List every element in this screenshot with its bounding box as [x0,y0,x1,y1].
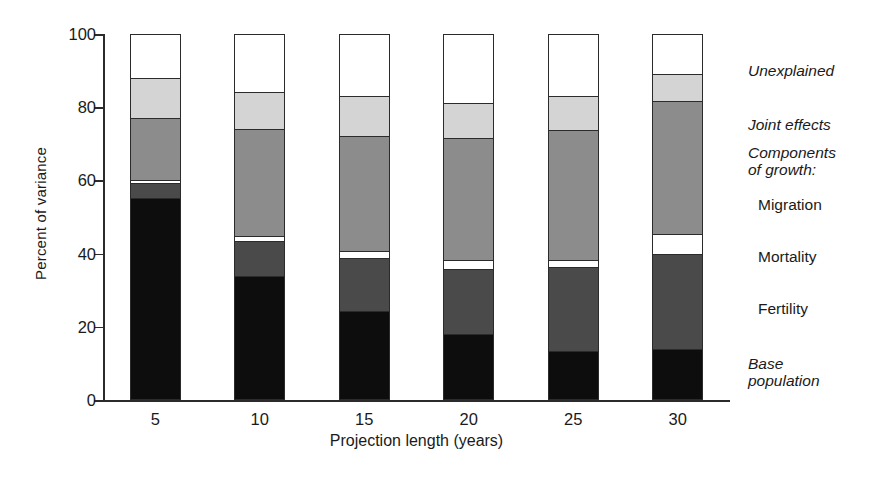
x-tick-label: 5 [151,410,160,429]
bar-segment-joint-effects [444,104,493,139]
legend-label-components-of-growth: Components of growth: [748,144,836,179]
bar-segment-migration [653,102,702,235]
bar-segment-base-population [444,335,493,399]
bar-segment-base-population [653,350,702,399]
x-axis-title: Projection length (years) [103,432,730,450]
bar-5[interactable] [130,34,181,400]
bar-segment-fertility [653,255,702,350]
bar-group [103,34,730,400]
x-tick-label: 30 [669,410,687,429]
bar-15[interactable] [339,34,390,400]
bar-segment-fertility [340,259,389,312]
bar-segment-base-population [235,277,284,399]
bar-segment-migration [444,139,493,261]
legend-label-mortality: Mortality [748,248,817,265]
legend: UnexplainedJoint effectsComponents of gr… [748,0,889,477]
bar-segment-unexplained [444,35,493,104]
x-axis-line [103,400,730,402]
x-tick-label: 25 [564,410,582,429]
y-tick-label: 40 [78,244,96,263]
bar-segment-fertility [131,184,180,199]
y-tick-label: 20 [78,317,96,336]
y-tick-label: 0 [87,391,96,410]
bar-segment-fertility [444,270,493,336]
y-tick-label: 100 [68,25,96,44]
y-tick-label: 60 [78,171,96,190]
bar-segment-migration [235,130,284,237]
y-axis-title: Percent of variance [32,104,49,324]
bar-segment-joint-effects [340,97,389,137]
legend-label-base-population: Base population [748,355,820,390]
plot-area: 020406080100 51015202530 [103,34,730,400]
bar-25[interactable] [548,34,599,400]
bar-20[interactable] [443,34,494,400]
bar-segment-fertility [549,268,598,352]
legend-label-migration: Migration [748,196,822,213]
legend-label-joint-effects: Joint effects [748,116,831,133]
bar-segment-mortality [444,261,493,270]
y-tick-label: 80 [78,98,96,117]
bar-segment-migration [340,137,389,252]
bar-segment-joint-effects [549,97,598,132]
bar-segment-unexplained [549,35,598,97]
x-tick-label: 20 [460,410,478,429]
bar-segment-mortality [340,252,389,259]
bar-segment-joint-effects [235,93,284,129]
x-tick-label: 15 [355,410,373,429]
bar-segment-joint-effects [131,79,180,119]
bar-segment-unexplained [653,35,702,75]
bar-segment-base-population [131,199,180,399]
bar-segment-migration [549,131,598,260]
bar-segment-fertility [235,242,284,277]
bar-segment-joint-effects [653,75,702,102]
bar-segment-unexplained [235,35,284,93]
legend-label-unexplained: Unexplained [748,62,834,79]
legend-label-fertility: Fertility [748,300,808,317]
bar-segment-base-population [340,312,389,399]
chart-root: Percent of variance 020406080100 5101520… [0,0,889,477]
x-tick-label: 10 [251,410,269,429]
bar-segment-mortality [549,261,598,268]
bar-segment-unexplained [340,35,389,97]
bar-10[interactable] [234,34,285,400]
bar-segment-mortality [653,235,702,255]
bar-segment-base-population [549,352,598,399]
bar-segment-unexplained [131,35,180,79]
bar-30[interactable] [652,34,703,400]
bar-segment-migration [131,119,180,181]
